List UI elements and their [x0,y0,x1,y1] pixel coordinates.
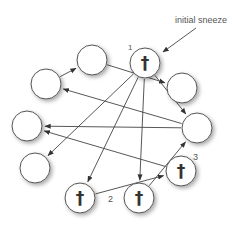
initial-sneeze-arrow [163,28,196,52]
person-circle [12,111,42,141]
person-circle [167,73,197,103]
node-lower-right: † [166,156,196,186]
initial-sneeze-callout: initial sneeze [163,15,227,52]
nodes: †††† [12,45,212,213]
node-label-3: 3 [193,152,198,162]
node-upper-right [167,73,197,103]
edge-right-to-far-left [45,126,181,128]
edge-lower-right-to-far-left [44,131,165,167]
node-lower-left [20,153,50,183]
node-left [31,69,61,99]
person-circle [182,113,212,143]
dagger-icon: † [135,188,144,208]
person-circle [20,153,50,183]
node-right [182,113,212,143]
edge-right-to-left [63,89,181,124]
node-label-1: 1 [128,43,133,52]
dagger-icon: † [141,53,150,73]
node-label-2: 2 [108,194,113,204]
person-circle [77,45,107,75]
edges [44,65,186,194]
edge-left-to-upper-left [60,68,76,76]
initial-sneeze-label: initial sneeze [175,15,227,25]
node-bottom: † [124,183,154,213]
node-far-left [12,111,42,141]
sneeze-diagram: †††† initial sneeze 1 2 3 [0,0,232,232]
dagger-icon: † [177,161,186,181]
node-bottom-left: † [65,183,95,213]
dagger-icon: † [76,188,85,208]
node-top: † [130,48,160,78]
person-circle [31,69,61,99]
edge-top-to-bottom [140,79,145,180]
node-upper-left [77,45,107,75]
